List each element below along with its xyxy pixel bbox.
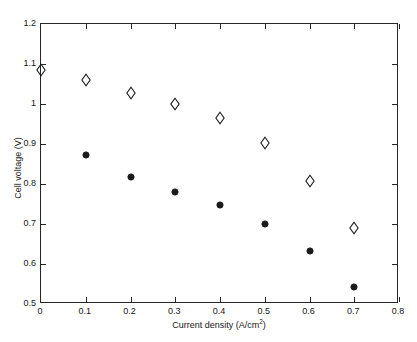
x-tick-mark (265, 297, 266, 302)
x-tick-mark (131, 297, 132, 302)
x-tick-label: 0.1 (78, 306, 91, 316)
x-axis-label: Current density (A/cm2) (40, 320, 398, 330)
x-tick-mark-top (131, 24, 132, 29)
data-point-diamond-open (215, 112, 226, 125)
y-tick-mark-right (392, 104, 397, 105)
x-axis-label-superscript: 2 (259, 318, 263, 325)
x-tick-mark (310, 297, 311, 302)
x-tick-mark (354, 297, 355, 302)
data-point-circle-filled (350, 282, 359, 291)
x-tick-label: 0.7 (347, 306, 360, 316)
x-tick-label: 0.5 (257, 306, 270, 316)
y-tick-mark (41, 144, 46, 145)
data-point-diamond-open (304, 174, 315, 187)
y-tick-mark-right (392, 144, 397, 145)
y-tick-mark (41, 224, 46, 225)
y-tick-mark (41, 104, 46, 105)
y-tick-label: 0.9 (23, 138, 36, 148)
x-tick-mark-top (265, 24, 266, 29)
y-tick-label: 0.5 (23, 298, 36, 308)
figure-canvas: 00.10.20.30.40.50.60.70.8 0.50.60.70.80.… (0, 0, 417, 342)
x-tick-label: 0.8 (392, 306, 405, 316)
y-axis-label: Cell voltage (V) (13, 98, 23, 238)
x-tick-label: 0.3 (168, 306, 181, 316)
y-tick-mark-right (392, 224, 397, 225)
x-tick-label: 0.6 (302, 306, 315, 316)
x-tick-mark (220, 297, 221, 302)
data-point-circle-filled (216, 201, 225, 210)
y-tick-label: 0.7 (23, 218, 36, 228)
y-tick-label: 1 (31, 98, 36, 108)
y-tick-label: 0.6 (23, 258, 36, 268)
y-tick-mark (41, 184, 46, 185)
data-point-circle-filled (81, 151, 90, 160)
data-point-diamond-open (36, 64, 47, 77)
data-point-diamond-open (125, 86, 136, 99)
data-point-circle-filled (305, 246, 314, 255)
x-tick-label: 0 (37, 306, 42, 316)
y-tick-label: 0.8 (23, 178, 36, 188)
data-point-diamond-open (259, 136, 270, 149)
y-tick-mark-right (392, 64, 397, 65)
x-tick-mark-top (86, 24, 87, 29)
data-point-circle-filled (260, 220, 269, 229)
data-point-diamond-open (349, 222, 360, 235)
data-point-circle-filled (171, 188, 180, 197)
x-tick-label: 0.4 (213, 306, 226, 316)
y-tick-mark (41, 64, 46, 65)
x-tick-mark (175, 297, 176, 302)
x-tick-mark (399, 297, 400, 302)
y-tick-label: 1.2 (23, 18, 36, 28)
x-tick-mark (86, 297, 87, 302)
plot-area (40, 23, 398, 303)
y-tick-mark-right (392, 184, 397, 185)
x-tick-mark-top (354, 24, 355, 29)
x-tick-mark-top (220, 24, 221, 29)
y-tick-mark (41, 264, 46, 265)
data-point-layer (41, 24, 397, 302)
x-tick-mark-top (310, 24, 311, 29)
x-tick-mark-top (175, 24, 176, 29)
data-point-diamond-open (80, 74, 91, 87)
data-point-diamond-open (170, 98, 181, 111)
x-tick-label: 0.2 (123, 306, 136, 316)
y-tick-mark-right (392, 264, 397, 265)
x-tick-mark-top (399, 24, 400, 29)
y-tick-label: 1.1 (23, 58, 36, 68)
data-point-circle-filled (126, 173, 135, 182)
